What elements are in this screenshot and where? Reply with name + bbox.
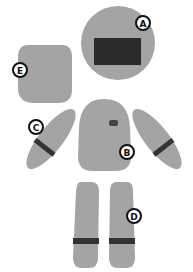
left-leg-part [73,182,99,268]
label-d: D [127,209,141,223]
svg-text:B: B [124,148,131,158]
svg-text:A: A [140,19,147,29]
head-dark-panel [94,38,141,65]
left-leg-band [73,238,99,244]
svg-text:C: C [33,123,40,133]
right-leg-part [109,182,135,268]
label-b: B [120,145,134,159]
label-c: C [29,120,43,134]
label-a: A [136,16,150,30]
left-arm-part [19,102,83,175]
svg-text:D: D [130,212,137,222]
body-parts-diagram: A E C B D [0,0,193,272]
svg-text:E: E [17,66,23,76]
right-arm-part [125,102,189,175]
torso-part [78,99,131,171]
right-leg-band [109,238,135,244]
label-e: E [13,63,27,77]
torso-mark [109,120,118,126]
